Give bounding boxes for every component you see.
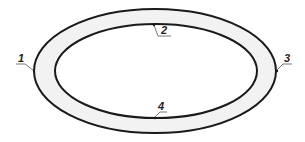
label-4-callout: 4	[154, 100, 167, 119]
label-3-callout: 3	[276, 52, 292, 72]
label-2: 2	[160, 24, 167, 36]
label-1-callout: 1	[16, 52, 35, 72]
inner-ellipse	[55, 24, 257, 118]
ring-diagram: 1 2 3 4	[0, 0, 305, 142]
label-2-callout: 2	[153, 24, 171, 36]
label-3: 3	[284, 52, 290, 64]
label-1: 1	[18, 52, 24, 64]
label-4: 4	[157, 100, 164, 112]
